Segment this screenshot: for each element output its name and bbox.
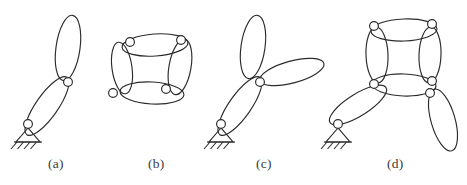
joint-ternary: [256, 78, 265, 87]
link-upper-right: [257, 53, 326, 91]
joint-loop-top-right: [428, 20, 437, 29]
joint-ground: [24, 120, 33, 129]
link-upper-vertical: [237, 14, 270, 81]
ground-support-hatch-2: [328, 142, 334, 149]
joint-top-right: [177, 36, 186, 45]
diagram-c: [204, 14, 327, 149]
joint-output: [426, 89, 435, 98]
joint-bottom-right: [162, 85, 171, 94]
ground-support-hatch-3: [24, 142, 30, 149]
ground-support-hatch-2: [18, 142, 24, 149]
ground-support-hatch-2: [211, 142, 217, 149]
caption-a: (a): [48, 156, 64, 172]
joint-loop-top-left: [370, 22, 379, 31]
joint-loop-bottom-left: [370, 80, 379, 89]
joint-ground: [217, 120, 226, 129]
joint-ground: [334, 120, 343, 129]
link-loop-right: [418, 27, 442, 84]
ground-support-hatch-3: [217, 142, 223, 149]
caption-b: (b): [148, 156, 164, 172]
diagram-d: [321, 18, 463, 154]
ground-support-hatch-4: [224, 142, 230, 149]
diagram-b: [108, 32, 195, 106]
caption-c: (c): [256, 156, 272, 172]
ground-support-hatch-1: [204, 142, 210, 149]
ground-support-hatch-1: [321, 142, 327, 149]
diagram-a: [11, 14, 84, 149]
ground-support-hatch-4: [341, 142, 347, 149]
ground-support-hatch-1: [11, 142, 17, 149]
ground-support-hatch-3: [334, 142, 340, 149]
joint-bottom-left: [109, 89, 118, 98]
caption-d: (d): [387, 156, 403, 172]
joint-middle: [64, 78, 73, 87]
ground-support-hatch-4: [31, 142, 37, 149]
joint-loop-bottom-right: [428, 77, 437, 86]
link-loop-left: [365, 27, 389, 84]
link-upper: [52, 14, 85, 83]
link-bottom: [119, 80, 184, 105]
ground-support-triangle: [326, 128, 350, 142]
linkage-figure: (a) (b) (c) (d): [0, 0, 467, 185]
joint-top-left: [126, 38, 135, 47]
